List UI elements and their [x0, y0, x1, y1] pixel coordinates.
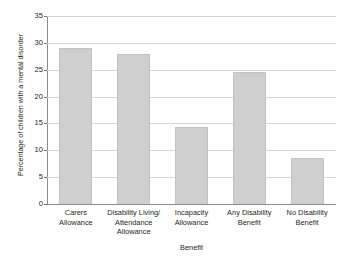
y-tick-label: 25	[21, 66, 43, 74]
bar	[117, 54, 150, 204]
y-tick-mark	[44, 97, 47, 98]
y-tick-mark	[44, 70, 47, 71]
bar	[175, 127, 208, 204]
x-tick-label-line: Disability Living/	[102, 208, 166, 218]
x-tick-label-line: Incapacity	[160, 208, 224, 218]
y-tick-mark	[44, 150, 47, 151]
x-axis-title: Benefit	[47, 243, 336, 252]
x-tick-label-line: Carers	[44, 208, 108, 218]
gridline	[47, 43, 336, 44]
y-tick-mark	[44, 16, 47, 17]
x-tick-label-line: Attendance	[102, 218, 166, 228]
y-tick-mark	[44, 43, 47, 44]
bar	[233, 72, 266, 204]
y-tick-label: 0	[21, 200, 43, 208]
y-tick-mark	[44, 177, 47, 178]
x-tick-label-line: Benefit	[275, 218, 339, 228]
x-tick-label-line: Any Disability	[217, 208, 281, 218]
y-tick-label: 20	[21, 93, 43, 101]
x-tick-label-line: Allowance	[160, 218, 224, 228]
x-tick-label: Any DisabilityBenefit	[217, 208, 281, 227]
gridline	[47, 16, 336, 17]
y-axis-tick-labels: 05101520253035	[18, 16, 43, 204]
y-tick-label: 35	[21, 12, 43, 20]
y-tick-label: 15	[21, 119, 43, 127]
bar	[291, 158, 324, 204]
x-tick-label-line: No Disability	[275, 208, 339, 218]
plot-area	[47, 16, 336, 204]
x-axis-tick-labels: CarersAllowanceDisability Living/Attenda…	[47, 208, 336, 248]
x-tick-label: Disability Living/AttendanceAllowance	[102, 208, 166, 237]
y-tick-mark	[44, 204, 47, 205]
x-tick-label: IncapacityAllowance	[160, 208, 224, 227]
x-tick-label: CarersAllowance	[44, 208, 108, 227]
x-tick-label: No DisabilityBenefit	[275, 208, 339, 227]
x-tick-label-line: Allowance	[102, 227, 166, 237]
bar	[59, 48, 92, 204]
y-tick-label: 30	[21, 39, 43, 47]
y-tick-label: 10	[21, 146, 43, 154]
y-tick-label: 5	[21, 173, 43, 181]
bar-chart-figure: Percentage of children with a mental dis…	[0, 0, 349, 266]
gridline	[47, 204, 336, 205]
x-tick-label-line: Benefit	[217, 218, 281, 228]
x-tick-label-line: Allowance	[44, 218, 108, 228]
y-tick-mark	[44, 123, 47, 124]
